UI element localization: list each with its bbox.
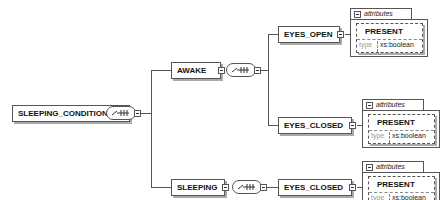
collapse-icon[interactable] bbox=[254, 67, 261, 74]
attribute-present[interactable]: PRESENT typexs:boolean bbox=[368, 114, 435, 144]
collapse-icon[interactable] bbox=[349, 122, 356, 129]
element-label: EYES_CLOSED bbox=[284, 183, 343, 192]
collapse-icon[interactable] bbox=[134, 110, 141, 117]
sequence-compositor[interactable] bbox=[232, 180, 262, 194]
element-label: SLEEPING bbox=[177, 183, 217, 192]
connector bbox=[151, 70, 152, 187]
collapse-icon[interactable] bbox=[366, 164, 373, 171]
attribute-present[interactable]: PRESENT typexs:boolean bbox=[368, 176, 435, 200]
attributes-header: attributes bbox=[376, 163, 405, 170]
collapse-icon[interactable] bbox=[366, 102, 373, 109]
connector bbox=[141, 113, 151, 114]
element-label: SLEEPING_CONDITIONS bbox=[18, 109, 113, 118]
attributes-group: attributes PRESENT typexs:boolean bbox=[362, 161, 442, 200]
type-value: xs:boolean bbox=[377, 41, 414, 52]
element-label: EYES_OPEN bbox=[284, 30, 332, 39]
sequence-compositor[interactable] bbox=[106, 106, 136, 120]
attributes-header: attributes bbox=[376, 101, 405, 108]
connector bbox=[268, 125, 278, 126]
collapse-icon[interactable] bbox=[222, 184, 229, 191]
element-awake[interactable]: AWAKE bbox=[171, 62, 221, 79]
element-eyes-closed[interactable]: EYES_CLOSED bbox=[278, 179, 352, 196]
collapse-icon[interactable] bbox=[260, 184, 267, 191]
collapse-icon[interactable] bbox=[349, 184, 356, 191]
collapse-icon[interactable] bbox=[354, 11, 361, 18]
attribute-name: PRESENT bbox=[377, 118, 415, 127]
connector bbox=[268, 34, 269, 125]
connector bbox=[268, 34, 278, 35]
collapse-icon[interactable] bbox=[337, 31, 344, 38]
sequence-compositor[interactable] bbox=[226, 63, 256, 77]
attribute-name: PRESENT bbox=[365, 27, 403, 36]
collapse-icon[interactable] bbox=[218, 67, 225, 74]
sequence-icon bbox=[237, 182, 257, 192]
element-sleeping[interactable]: SLEEPING bbox=[171, 179, 225, 196]
attributes-header: attributes bbox=[364, 10, 393, 17]
element-label: EYES_CLOSED bbox=[284, 121, 343, 130]
attributes-group: attributes PRESENT typexs:boolean bbox=[362, 99, 442, 148]
connector bbox=[266, 187, 278, 188]
connector bbox=[151, 187, 171, 188]
type-value: xs:boolean bbox=[389, 194, 426, 200]
sequence-icon bbox=[111, 108, 131, 118]
connector bbox=[151, 70, 171, 71]
element-eyes-open[interactable]: EYES_OPEN bbox=[278, 26, 340, 43]
element-eyes-closed[interactable]: EYES_CLOSED bbox=[278, 117, 352, 134]
connector bbox=[260, 70, 268, 71]
type-label: type bbox=[371, 132, 384, 139]
attribute-name: PRESENT bbox=[377, 180, 415, 189]
element-label: AWAKE bbox=[177, 66, 206, 75]
type-label: type bbox=[371, 194, 384, 200]
type-label: type bbox=[359, 41, 372, 48]
attributes-group: attributes PRESENT typexs:boolean bbox=[350, 8, 430, 57]
attribute-present[interactable]: PRESENT typexs:boolean bbox=[356, 23, 423, 53]
type-value: xs:boolean bbox=[389, 132, 426, 143]
sequence-icon bbox=[231, 65, 251, 75]
